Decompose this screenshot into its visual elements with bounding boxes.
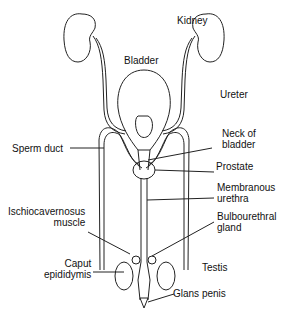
left-testis	[115, 262, 133, 290]
label-ischiocavernosus-muscle: Ischiocavernosus muscle	[8, 206, 85, 228]
label-membranous-urethra: Membranous urethra	[217, 182, 275, 204]
anatomy-drawing	[0, 0, 286, 319]
left-bulbourethral-gland	[132, 256, 140, 264]
label-caput-epididymis: Caput epididymis	[44, 258, 91, 280]
right-testis	[157, 262, 175, 290]
label-testis: Testis	[202, 262, 228, 273]
label-ureter: Ureter	[220, 89, 248, 100]
label-kidney: Kidney	[177, 15, 208, 26]
bladder	[118, 70, 171, 150]
trigone	[136, 116, 153, 137]
label-bulbourethral-gland: Bulbourethral gland	[217, 211, 276, 233]
urethra	[138, 178, 150, 300]
right-bulbourethral-gland	[148, 256, 156, 264]
label-prostate: Prostate	[216, 161, 253, 172]
glans	[140, 298, 148, 308]
prostate	[133, 161, 155, 179]
left-sperm-duct-b	[104, 132, 142, 270]
left-kidney	[64, 14, 95, 62]
label-bladder: Bladder	[124, 55, 158, 66]
label-neck-of-bladder: Neck of bladder	[222, 128, 256, 150]
label-glans-penis: Glans penis	[173, 288, 226, 299]
label-sperm-duct: Sperm duct	[12, 143, 63, 154]
